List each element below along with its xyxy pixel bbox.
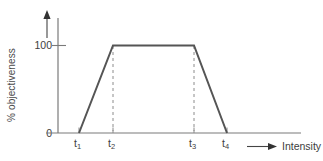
x-axis-arrow-icon — [247, 143, 277, 150]
x-tick-label-t4: t4 — [222, 137, 229, 149]
x-tick-label-t2: t2 — [108, 137, 115, 149]
chart-container: % objectiveness 100 0 t1 — [0, 0, 323, 161]
x-axis-title: Intensity — [282, 140, 321, 152]
objectiveness-curve — [79, 46, 227, 134]
x-tick-subscript-4: 4 — [225, 142, 229, 151]
x-tick-subscript-1: 1 — [77, 142, 81, 151]
x-tick-label-t3: t3 — [189, 137, 196, 149]
plot-area — [0, 0, 323, 161]
y-axis-arrow-icon — [43, 10, 50, 38]
x-tick-subscript-2: 2 — [111, 142, 115, 151]
x-tick-subscript-3: 3 — [192, 142, 196, 151]
x-tick-label-t1: t1 — [74, 137, 81, 149]
